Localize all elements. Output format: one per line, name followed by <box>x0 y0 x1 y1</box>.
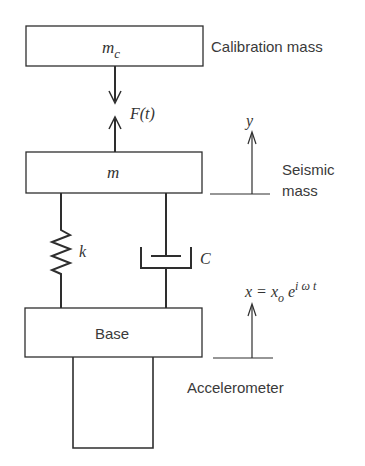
base-label: Base <box>95 325 129 342</box>
calibration-mass-label: Calibration mass <box>211 38 323 55</box>
force-label: F(t) <box>129 105 155 123</box>
spring-icon <box>52 193 70 308</box>
seismic-mass-symbol: m <box>107 163 119 182</box>
calibration-mass-symbol: mc <box>102 38 120 61</box>
seismic-mass-label-2: mass <box>282 182 318 199</box>
accelerometer-calibration-diagram: mc Calibration mass F(t) y m Seismic mas… <box>0 0 365 466</box>
y-label: y <box>244 112 254 130</box>
accelerometer-label: Accelerometer <box>187 379 284 396</box>
accelerometer-body <box>73 357 153 448</box>
spring-label: k <box>79 243 87 260</box>
damper-label: C <box>200 250 211 267</box>
seismic-mass-label: Seismic <box>282 161 335 178</box>
x-equation: x = xo ei ω t <box>244 279 317 305</box>
